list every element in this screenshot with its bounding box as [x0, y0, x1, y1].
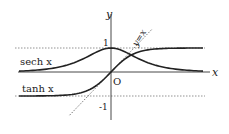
function-plot: y x O 1 -1 sech x tanh x y=x: [0, 0, 229, 134]
tick-label-1: 1: [103, 38, 109, 48]
origin-label: O: [113, 76, 121, 87]
y-axis-label: y: [105, 8, 113, 21]
tanh-label: tanh x: [22, 83, 54, 94]
identity-label: y=x: [130, 28, 148, 49]
x-axis-label: x: [212, 66, 219, 79]
sech-label: sech x: [20, 56, 52, 67]
tick-label-neg1: -1: [99, 102, 108, 112]
